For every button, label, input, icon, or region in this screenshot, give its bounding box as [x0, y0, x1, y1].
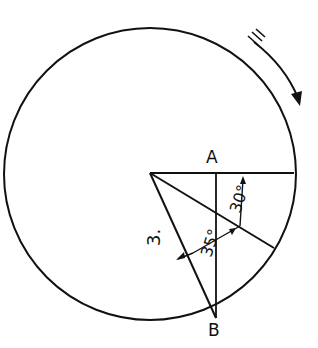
- label-angle-30: 30°: [226, 182, 253, 215]
- diagram-canvas: A B 30° 35° 3.: [0, 0, 318, 348]
- label-point-a: A: [206, 147, 218, 167]
- rotation-arrow-icon: [248, 29, 302, 106]
- label-angle-35: 35°: [197, 226, 224, 259]
- label-side-3: 3.: [143, 229, 164, 246]
- label-point-b: B: [208, 320, 220, 340]
